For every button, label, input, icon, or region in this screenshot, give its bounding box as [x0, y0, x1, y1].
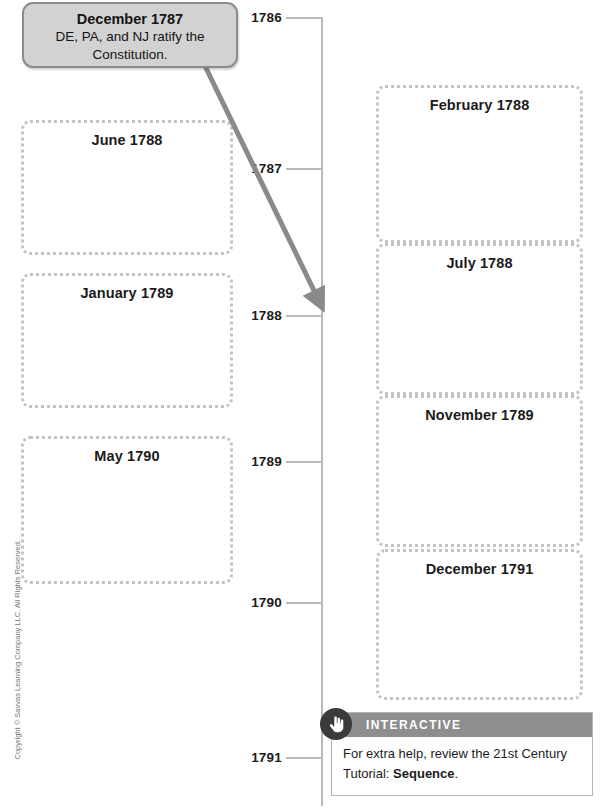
- timeline-activity-page: Copyright © Savvas Learning Company LLC.…: [0, 0, 604, 810]
- timeline-tick-1786: [286, 17, 322, 19]
- timeline-tick-1788: [286, 315, 322, 317]
- interactive-panel-header: INTERACTIVE: [332, 713, 592, 737]
- drop-zone-label: December 1791: [379, 561, 580, 577]
- timeline-year-label-1787: 1787: [230, 161, 282, 176]
- drop-zone-label: June 1788: [24, 132, 230, 148]
- interactive-text-line1: For extra help, review the 21st Century: [343, 746, 567, 761]
- timeline-tick-1791: [286, 757, 322, 759]
- interactive-tutorial-name[interactable]: Sequence: [393, 766, 454, 781]
- hand-pointer-glyph: [327, 715, 346, 734]
- callout-line-1: DE, PA, and NJ ratify the: [24, 28, 236, 46]
- timeline-year-label-1790: 1790: [230, 595, 282, 610]
- drop-zone-label: July 1788: [379, 255, 580, 271]
- callout-title: December 1787: [24, 10, 236, 28]
- timeline-tick-1787: [286, 168, 322, 170]
- drop-zone-december-1791[interactable]: December 1791: [376, 549, 583, 700]
- drop-zone-july-1788[interactable]: July 1788: [376, 243, 583, 395]
- interactive-text-line2: Tutorial:: [343, 766, 393, 781]
- copyright-notice: Copyright © Savvas Learning Company LLC.…: [13, 560, 22, 760]
- timeline-tick-1789: [286, 461, 322, 463]
- drop-zone-january-1789[interactable]: January 1789: [21, 273, 233, 408]
- timeline-year-label-1788: 1788: [230, 308, 282, 323]
- interactive-panel[interactable]: INTERACTIVE For extra help, review the 2…: [331, 712, 593, 796]
- callout-december-1787: December 1787 DE, PA, and NJ ratify the …: [22, 2, 238, 68]
- drop-zone-label: May 1790: [24, 448, 230, 464]
- hand-pointer-icon[interactable]: [320, 708, 352, 740]
- callout-line-2: Constitution.: [24, 46, 236, 64]
- timeline-tick-1790: [286, 602, 322, 604]
- drop-zone-label: November 1789: [379, 407, 580, 423]
- timeline-year-label-1791: 1791: [230, 750, 282, 765]
- drop-zone-november-1789[interactable]: November 1789: [376, 395, 583, 547]
- drop-zone-label: January 1789: [24, 285, 230, 301]
- drop-zone-may-1790[interactable]: May 1790: [21, 436, 233, 584]
- drop-zone-label: February 1788: [379, 97, 580, 113]
- drop-zone-february-1788[interactable]: February 1788: [376, 85, 583, 243]
- timeline-axis: [321, 17, 323, 806]
- interactive-text-period: .: [455, 766, 459, 781]
- drop-zone-june-1788[interactable]: June 1788: [21, 120, 233, 255]
- interactive-panel-body: For extra help, review the 21st Century …: [332, 737, 592, 784]
- timeline-year-label-1789: 1789: [230, 454, 282, 469]
